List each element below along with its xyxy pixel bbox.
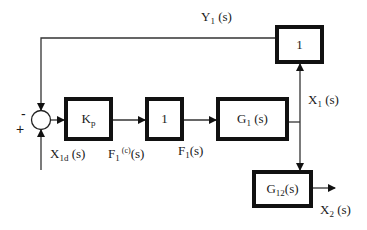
f1-signal-label: F1(s) (178, 144, 203, 162)
x1-signal-label: X1 (s) (308, 93, 339, 111)
g12-block: G12(s) (252, 170, 313, 208)
plus-sign: + (16, 122, 24, 136)
x2-signal-label: X2 (s) (320, 203, 351, 221)
x1d-signal-label: X1d (s) (50, 147, 85, 165)
kp-label: Kp (82, 111, 96, 128)
unity-mid-label: 1 (161, 111, 168, 127)
f1c-signal-label: F1 (c)(s) (108, 144, 144, 165)
y1-signal-label: Y1 (s) (201, 10, 232, 28)
unity-feedback-label: 1 (296, 37, 303, 53)
g1-label: G1 (s) (237, 111, 268, 128)
minus-sign: - (21, 107, 26, 121)
unity-mid-block: 1 (145, 97, 184, 141)
unity-feedback-block: 1 (275, 25, 324, 64)
summing-junction (32, 111, 51, 130)
g1-block: G1 (s) (216, 97, 289, 141)
kp-block: Kp (64, 97, 113, 141)
g12-label: G12(s) (266, 181, 298, 198)
